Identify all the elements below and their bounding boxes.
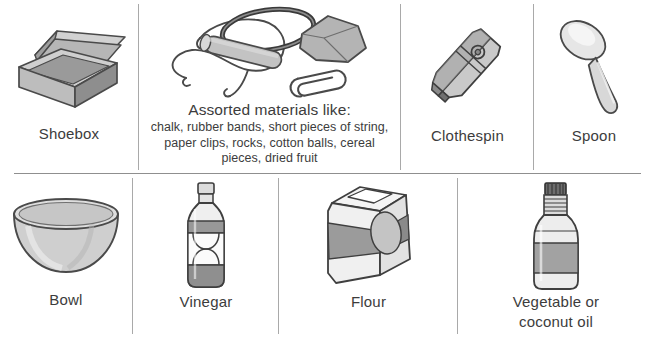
caption-flour: Flour [280, 292, 457, 311]
spoon-art [535, 6, 653, 126]
shoebox-art [0, 6, 138, 124]
caption-oil-line1: Vegetable or [459, 292, 653, 312]
cell-bowl: Bowl [0, 182, 132, 334]
column-divider-top-1 [138, 4, 139, 170]
caption-spoon: Spoon [535, 126, 653, 145]
assorted-list: chalk, rubber bands, short pieces of str… [140, 120, 399, 167]
caption-oil-line2: coconut oil [459, 312, 653, 332]
flour-box-illustration [314, 181, 424, 293]
cell-vinegar: Vinegar [134, 182, 278, 334]
cell-flour: Flour [280, 182, 457, 334]
column-divider-bottom-3 [457, 178, 458, 334]
clothespin-art [402, 6, 533, 126]
bowl-art [0, 182, 132, 290]
column-divider-bottom-2 [278, 178, 279, 334]
assorted-materials-art [140, 4, 399, 100]
caption-shoebox: Shoebox [0, 124, 138, 143]
cell-clothespin: Clothespin [402, 6, 533, 171]
flour-art [280, 182, 457, 292]
caption-bowl: Bowl [0, 290, 132, 309]
shoebox-illustration [9, 15, 129, 115]
oil-bottle-illustration [518, 181, 594, 293]
vinegar-art [134, 182, 278, 292]
spoon-illustration [539, 16, 649, 116]
caption-vinegar: Vinegar [134, 292, 278, 311]
vinegar-bottle-illustration [171, 181, 241, 293]
cell-shoebox: Shoebox [0, 6, 138, 171]
cell-oil: Vegetable or coconut oil [459, 182, 653, 334]
bowl-illustration [6, 188, 126, 284]
column-divider-top-2 [400, 4, 401, 170]
row-divider [14, 173, 641, 174]
caption-clothespin: Clothespin [402, 126, 533, 145]
cell-assorted-materials: Assorted materials like: chalk, rubber b… [140, 4, 399, 172]
materials-grid-sheet: Shoebox [0, 0, 653, 338]
column-divider-bottom-1 [132, 178, 133, 334]
assorted-heading: Assorted materials like: [188, 100, 351, 120]
assorted-materials-illustration [152, 4, 387, 100]
oil-art [459, 182, 653, 292]
cell-spoon: Spoon [535, 6, 653, 171]
clothespin-illustration [413, 16, 523, 116]
column-divider-top-3 [533, 4, 534, 170]
